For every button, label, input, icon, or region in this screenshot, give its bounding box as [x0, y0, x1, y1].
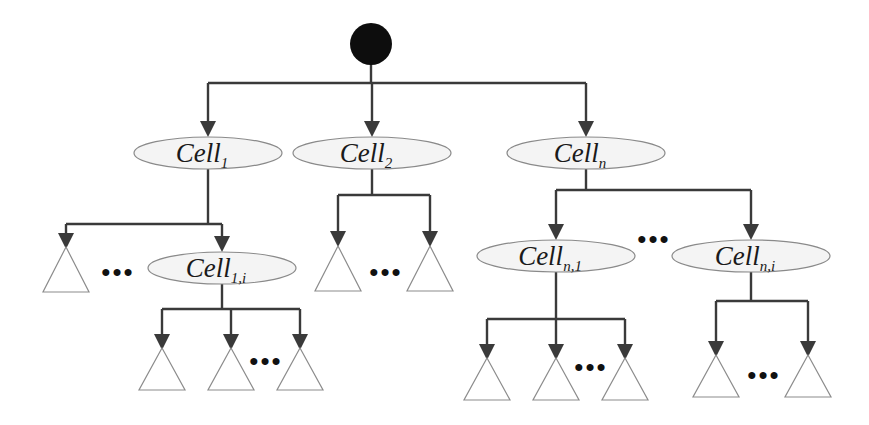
node-label-base: Cell	[186, 253, 231, 283]
node-cell-2: Cell2	[293, 137, 451, 171]
arrow-head	[364, 121, 380, 137]
node-label-base: Cell	[518, 241, 563, 271]
node-cell-n: Celln	[507, 137, 665, 171]
ellipsis-dots: •••	[249, 347, 282, 376]
leaf-triangle	[693, 355, 739, 397]
node-label-subscript: 1,i	[231, 270, 246, 286]
arrow-head	[422, 231, 438, 247]
arrow-head	[578, 121, 594, 137]
node-label: Celln	[554, 138, 607, 171]
leaf-triangle	[533, 358, 579, 400]
node-label: Cell1	[176, 138, 229, 171]
node-label-base: Cell	[715, 241, 760, 271]
arrow-head	[330, 231, 346, 247]
leaf-triangle	[139, 348, 185, 390]
node-label-subscript: n,i	[760, 258, 775, 274]
ellipsis-dots: •••	[101, 258, 134, 287]
leaf-triangle	[277, 348, 323, 390]
arrow-head	[548, 224, 564, 240]
ellipsis-dots: •••	[637, 225, 670, 254]
root-node	[350, 23, 392, 65]
node-cell-1: Cell1	[134, 137, 282, 171]
leaf-triangle	[785, 355, 831, 397]
node-cell-1-i: Cell1,i	[148, 252, 296, 286]
edges	[58, 65, 816, 360]
leaf-triangle	[464, 358, 510, 400]
ellipsis-dots: •••	[747, 361, 780, 390]
leaf-triangle	[407, 246, 453, 291]
leaf-triangle	[602, 358, 648, 400]
node-cell-n-1: Celln,1	[477, 240, 635, 274]
leaf-triangle	[208, 348, 254, 390]
node-label-subscript: n,1	[563, 258, 582, 274]
arrow-head	[200, 121, 216, 137]
node-label-base: Cell	[176, 138, 221, 168]
ellipsis-dots: •••	[369, 258, 402, 287]
node-label-subscript: n	[599, 155, 607, 171]
tree-diagram: Cell1Cell2CellnCell1,iCelln,1Celln,i •••…	[0, 0, 869, 425]
node-label-subscript: 2	[385, 155, 393, 171]
ellipsis-dots: •••	[574, 353, 607, 382]
leaf-triangle	[315, 246, 361, 291]
arrow-head	[743, 224, 759, 240]
node-cell-n-i: Celln,i	[672, 240, 830, 274]
node-label-base: Cell	[340, 138, 385, 168]
leaf-triangle	[43, 247, 89, 292]
arrow-head	[214, 236, 230, 252]
node-label-subscript: 1	[221, 155, 229, 171]
cell-nodes: Cell1Cell2CellnCell1,iCelln,1Celln,i	[134, 137, 830, 286]
node-label-base: Cell	[554, 138, 599, 168]
